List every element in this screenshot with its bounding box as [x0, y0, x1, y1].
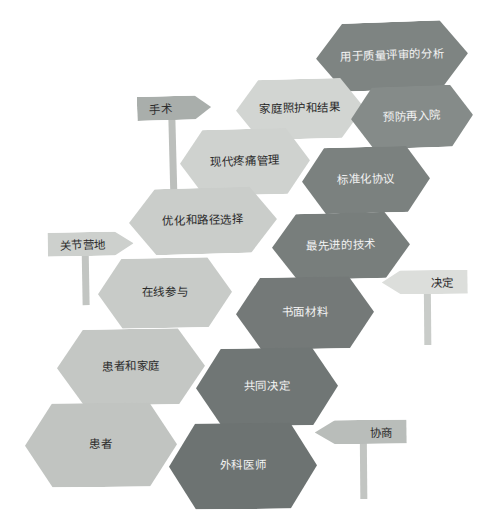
signpost-plank: 手术 [137, 95, 212, 121]
hex-node-optimization-and-pathway-selection: 优化和路径选择 [128, 186, 278, 256]
hex-node-label: 书面材料 [278, 306, 333, 320]
signpost-joint-camp: 关节营地 [47, 231, 134, 306]
signpost-decision: 决定 [382, 270, 469, 347]
hex-node-prevent-readmission: 预防再入院 [350, 84, 474, 150]
signpost-plank: 决定 [382, 270, 468, 295]
hex-node-label: 标准化协议 [333, 173, 399, 188]
hex-node-label: 外科医师 [216, 459, 271, 473]
signpost-label: 关节营地 [59, 236, 106, 253]
hex-node-label: 患者和家庭 [98, 360, 164, 374]
hex-node-label: 用于质量评审的分析 [336, 47, 449, 64]
signpost-post [168, 119, 177, 189]
hex-node-label: 家庭照护和结果 [255, 101, 345, 117]
signpost-post [360, 443, 367, 499]
signpost-label: 手术 [149, 100, 173, 117]
signpost-label: 决定 [430, 274, 453, 290]
signpost-post [82, 255, 90, 305]
hex-node-label: 现代疼痛管理 [206, 154, 284, 169]
hex-node-patient-and-family: 患者和家庭 [56, 328, 205, 407]
hex-node-label: 优化和路径选择 [158, 213, 248, 229]
hex-node-label: 在线参与 [138, 286, 193, 300]
diagram-canvas: 用于质量评审的分析家庭照护和结果预防再入院现代疼痛管理标准化协议优化和路径选择最… [0, 0, 482, 530]
hex-node-label: 最先进的技术 [302, 238, 380, 253]
hex-node-written-materials: 书面材料 [235, 276, 374, 350]
hex-node-label: 共同决定 [240, 380, 295, 394]
signpost-plank: 关节营地 [47, 231, 133, 256]
signpost-label: 协商 [369, 424, 392, 440]
hex-node-label: 预防再入院 [379, 109, 445, 125]
hex-node-surgeon: 外科医师 [169, 422, 318, 509]
signpost-negotiation: 协商 [315, 420, 408, 501]
hex-node-standardized-protocol: 标准化协议 [301, 145, 431, 214]
signpost-plank: 协商 [315, 420, 407, 445]
hex-node-label: 患者 [85, 438, 116, 451]
signpost-post [424, 293, 431, 345]
hex-node-shared-decision-making: 共同决定 [195, 347, 338, 427]
hex-node-patient: 患者 [25, 402, 178, 487]
signpost-surgery: 手术 [137, 95, 213, 191]
